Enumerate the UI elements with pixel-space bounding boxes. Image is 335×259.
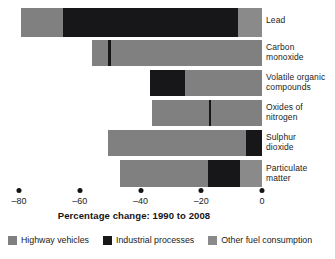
category-label-line: nitrogen bbox=[266, 112, 335, 122]
bar-segment-highway bbox=[152, 100, 209, 126]
plot-area bbox=[0, 0, 268, 190]
bar-segment-industrial bbox=[150, 70, 185, 96]
category-label-line: compounds bbox=[266, 82, 335, 92]
bar-carbon-monoxide bbox=[92, 40, 262, 66]
category-label: Lead bbox=[266, 15, 335, 25]
x-axis-tick: –40 bbox=[133, 188, 148, 206]
chart-legend: Highway vehiclesIndustrial processesOthe… bbox=[8, 232, 333, 248]
bar-segment-highway bbox=[211, 100, 262, 126]
bar-segment-other bbox=[240, 160, 262, 187]
category-label-line: Carbon bbox=[266, 42, 335, 52]
category-label-line: Volatile organic bbox=[266, 72, 335, 82]
category-label: Volatile organiccompounds bbox=[266, 72, 335, 92]
category-label-line: dioxide bbox=[266, 142, 335, 152]
tick-dot-icon bbox=[138, 188, 143, 193]
x-axis: –80–60–40–200 bbox=[0, 188, 268, 212]
bar-segment-other bbox=[238, 8, 262, 37]
tick-dot-icon bbox=[259, 188, 264, 193]
bar-segment-highway bbox=[92, 40, 108, 66]
legend-swatch-icon bbox=[208, 236, 217, 245]
legend-label: Industrial processes bbox=[116, 235, 194, 245]
category-label-line: Sulphur bbox=[266, 132, 335, 142]
bar-oxides-of-nitrogen bbox=[152, 100, 262, 126]
category-label: Sulphurdioxide bbox=[266, 132, 335, 152]
bar-segment-highway bbox=[111, 40, 262, 66]
bar-lead bbox=[21, 8, 262, 37]
x-axis-tick-label: –80 bbox=[11, 196, 26, 206]
legend-label: Highway vehicles bbox=[21, 235, 89, 245]
tick-dot-icon bbox=[77, 188, 82, 193]
x-axis-tick-label: –40 bbox=[133, 196, 148, 206]
x-axis-tick-label: –20 bbox=[194, 196, 209, 206]
x-axis-tick-label: –60 bbox=[72, 196, 87, 206]
bar-volatile-organic-compounds bbox=[150, 70, 262, 96]
tick-dot-icon bbox=[199, 188, 204, 193]
category-label-line: Lead bbox=[266, 15, 335, 25]
bar-segment-highway bbox=[108, 130, 246, 156]
category-label-line: Particulate bbox=[266, 163, 335, 173]
chart-container: LeadCarbonmonoxideVolatile organiccompou… bbox=[0, 0, 335, 259]
x-axis-tick-label: 0 bbox=[259, 196, 264, 206]
category-label-line: monoxide bbox=[266, 52, 335, 62]
legend-label: Other fuel consumption bbox=[221, 235, 312, 245]
bar-segment-industrial bbox=[208, 160, 240, 187]
bar-segment-highway bbox=[120, 160, 208, 187]
bar-segment-highway bbox=[185, 70, 262, 96]
x-axis-tick: –60 bbox=[72, 188, 87, 206]
category-label: Oxides ofnitrogen bbox=[266, 102, 335, 122]
x-axis-title: Percentage change: 1990 to 2008 bbox=[0, 210, 268, 221]
category-label-line: Oxides of bbox=[266, 102, 335, 112]
legend-item-highway: Highway vehicles bbox=[8, 235, 89, 245]
legend-item-industrial: Industrial processes bbox=[103, 235, 194, 245]
category-label-line: matter bbox=[266, 173, 335, 183]
bar-sulphur-dioxide bbox=[108, 130, 262, 156]
bar-particulate-matter bbox=[120, 160, 262, 187]
legend-item-other: Other fuel consumption bbox=[208, 235, 312, 245]
x-axis-tick: –20 bbox=[194, 188, 209, 206]
bar-segment-industrial bbox=[246, 130, 262, 156]
category-label-list: LeadCarbonmonoxideVolatile organiccompou… bbox=[266, 0, 335, 190]
category-label: Particulatematter bbox=[266, 163, 335, 183]
x-axis-tick: –80 bbox=[11, 188, 26, 206]
legend-swatch-icon bbox=[103, 236, 112, 245]
legend-swatch-icon bbox=[8, 236, 17, 245]
tick-dot-icon bbox=[17, 188, 22, 193]
category-label: Carbonmonoxide bbox=[266, 42, 335, 62]
bar-segment-highway bbox=[21, 8, 63, 37]
bar-segment-industrial bbox=[63, 8, 238, 37]
x-axis-tick: 0 bbox=[259, 188, 264, 206]
